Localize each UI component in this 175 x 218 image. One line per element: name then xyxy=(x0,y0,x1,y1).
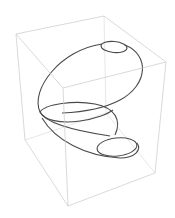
box-edge xyxy=(16,34,63,88)
box-edge xyxy=(104,16,166,62)
3d-plot xyxy=(0,0,175,218)
box-edge xyxy=(25,140,68,206)
box-edge xyxy=(63,88,68,206)
bounding-box-front-edges xyxy=(16,16,166,206)
plot-canvas xyxy=(0,0,175,218)
box-edge xyxy=(16,16,104,34)
space-curve xyxy=(38,40,142,158)
box-edge xyxy=(104,16,106,113)
box-edge xyxy=(68,173,155,206)
box-edge xyxy=(106,113,155,173)
box-edge xyxy=(63,62,166,88)
box-edge xyxy=(16,34,25,140)
box-edge xyxy=(155,62,166,173)
curve-loop-bottom xyxy=(96,136,138,158)
